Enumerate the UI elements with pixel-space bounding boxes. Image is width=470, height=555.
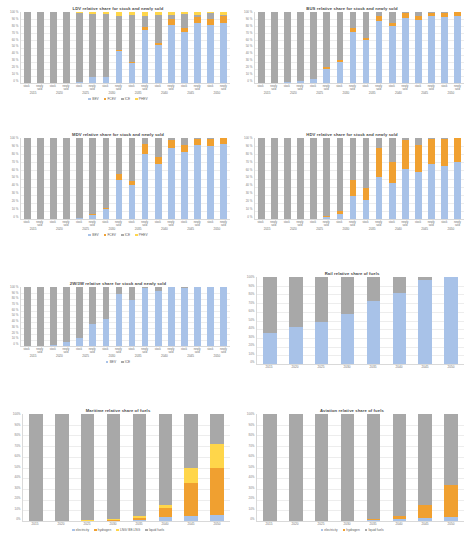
bar-segment[interactable] [181,152,188,219]
bar-segment[interactable] [155,15,162,43]
bar-column[interactable] [281,12,294,83]
bar-segment[interactable] [129,300,136,346]
bar-segment[interactable] [129,63,136,83]
bar-column[interactable] [412,414,438,521]
bar-segment[interactable] [210,468,223,515]
bar-column[interactable] [360,138,373,219]
bar-segment[interactable] [184,483,197,516]
bar-segment[interactable] [155,291,162,346]
stacked-bar[interactable] [24,138,31,219]
legend-item[interactable]: ICE [121,360,130,364]
bar-column[interactable] [268,12,281,83]
bar-column[interactable] [360,12,373,83]
bar-segment[interactable] [116,287,123,294]
bar-segment[interactable] [103,77,110,83]
stacked-bar[interactable] [89,138,96,219]
bar-segment[interactable] [402,169,409,219]
bar-column[interactable] [399,12,412,83]
bar-column[interactable] [49,414,75,521]
bar-segment[interactable] [89,14,96,76]
bar-column[interactable] [361,414,387,521]
bar-segment[interactable] [76,218,83,219]
bar-segment[interactable] [159,517,172,521]
bar-segment[interactable] [389,183,396,219]
stacked-bar[interactable] [315,414,328,521]
bar-segment[interactable] [376,177,383,219]
bar-column[interactable] [217,12,230,83]
bar-column[interactable] [257,277,283,364]
bar-segment[interactable] [129,15,136,63]
bar-segment[interactable] [168,148,175,219]
bar-segment[interactable] [271,138,278,219]
bar-column[interactable] [204,138,217,219]
bar-column[interactable] [99,287,112,346]
bar-segment[interactable] [103,14,110,76]
stacked-bar[interactable] [297,12,304,83]
bar-column[interactable] [152,414,178,521]
stacked-bar[interactable] [29,414,42,521]
stacked-bar[interactable] [444,414,457,521]
stacked-bar[interactable] [363,138,370,219]
bar-segment[interactable] [29,414,42,521]
legend-item[interactable]: hydrogen [343,528,360,532]
bar-segment[interactable] [89,138,96,214]
bar-segment[interactable] [220,287,227,346]
bar-column[interactable] [217,287,230,346]
bar-segment[interactable] [310,12,317,79]
bar-column[interactable] [112,138,125,219]
bar-segment[interactable] [341,277,354,314]
bar-segment[interactable] [418,505,431,518]
bar-column[interactable] [307,12,320,83]
bar-column[interactable] [152,138,165,219]
stacked-bar[interactable] [402,138,409,219]
stacked-bar[interactable] [454,138,461,219]
stacked-bar[interactable] [323,138,330,219]
bar-column[interactable] [438,138,451,219]
stacked-bar[interactable] [76,287,83,346]
stacked-bar[interactable] [63,287,70,346]
bar-column[interactable] [60,287,73,346]
bar-column[interactable] [204,287,217,346]
bar-segment[interactable] [350,12,357,28]
stacked-bar[interactable] [258,12,265,83]
stacked-bar[interactable] [116,12,123,83]
bar-column[interactable] [412,138,425,219]
stacked-bar[interactable] [37,12,44,83]
bar-segment[interactable] [116,180,123,219]
stacked-bar[interactable] [350,12,357,83]
bar-segment[interactable] [24,287,31,346]
stacked-bar[interactable] [323,12,330,83]
bar-segment[interactable] [350,138,357,180]
stacked-bar[interactable] [402,12,409,83]
stacked-bar[interactable] [103,287,110,346]
bar-segment[interactable] [263,277,276,333]
stacked-bar[interactable] [168,287,175,346]
stacked-bar[interactable] [194,138,201,219]
stacked-bar[interactable] [55,414,68,521]
bar-segment[interactable] [323,69,330,83]
stacked-bar[interactable] [341,414,354,521]
bar-segment[interactable] [184,414,197,468]
bar-segment[interactable] [210,515,223,521]
bar-segment[interactable] [76,82,83,83]
bar-segment[interactable] [393,293,406,364]
bar-segment[interactable] [142,288,149,346]
bar-segment[interactable] [284,138,291,219]
bar-segment[interactable] [454,138,461,162]
bar-segment[interactable] [271,12,278,83]
bar-segment[interactable] [315,277,328,322]
stacked-bar[interactable] [103,138,110,219]
bar-column[interactable] [451,12,464,83]
stacked-bar[interactable] [393,277,406,364]
bar-column[interactable] [112,12,125,83]
bar-segment[interactable] [129,138,136,181]
stacked-bar[interactable] [81,414,94,521]
bar-segment[interactable] [116,294,123,346]
bar-segment[interactable] [415,172,422,219]
bar-column[interactable] [386,277,412,364]
stacked-bar[interactable] [210,414,223,521]
stacked-bar[interactable] [129,287,136,346]
bar-segment[interactable] [159,414,172,505]
bar-segment[interactable] [184,468,197,483]
bar-column[interactable] [204,12,217,83]
